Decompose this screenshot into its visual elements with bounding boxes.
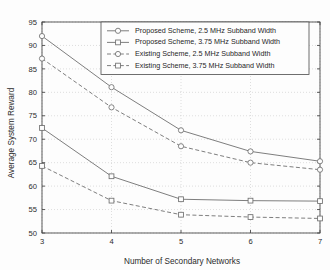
x-tick-label: 7 [318,237,322,246]
data-point-marker [178,144,183,149]
legend-marker-sample [115,28,120,33]
y-tick-label: 80 [29,88,37,97]
y-tick-label: 70 [29,135,37,144]
data-point-marker [248,215,253,220]
y-tick-label: 85 [29,65,37,74]
x-tick-label: 3 [40,237,44,246]
y-tick-label: 50 [29,229,37,238]
data-point-marker [109,85,114,90]
data-point-marker [40,164,45,169]
data-point-marker [109,198,114,203]
data-point-marker [179,197,184,202]
y-tick-label: 55 [29,205,37,214]
data-point-marker [318,199,323,204]
line-chart: 50556065707580859095 34567 Average Syste… [0,0,330,270]
y-tick-label: 65 [29,158,37,167]
x-tick-label: 5 [179,237,183,246]
data-point-marker [39,33,44,38]
data-point-marker [39,56,44,61]
x-tick-label: 4 [109,237,113,246]
chart-legend: Proposed Scheme, 2.5 MHz Subband WidthPr… [101,22,309,74]
legend-marker-sample [116,40,121,45]
legend-label: Proposed Scheme, 2.5 MHz Subband Width [135,26,276,35]
legend-marker-sample [116,63,121,68]
chart-figure: 50556065707580859095 34567 Average Syste… [0,0,330,270]
data-point-marker [109,105,114,110]
data-point-marker [40,126,45,131]
data-point-marker [248,149,253,154]
data-point-marker [317,167,322,172]
x-axis-title: Number of Secondary Networks [124,257,240,266]
x-tick-label: 6 [248,237,252,246]
data-point-marker [317,159,322,164]
y-tick-label: 95 [29,18,37,27]
legend-label: Proposed Scheme, 3.75 MHz Subband Width [135,37,280,46]
legend-label: Existing Scheme, 2.5 MHz Subband Width [135,49,270,58]
y-axis-title: Average System Reward [7,87,16,178]
legend-marker-sample [115,51,120,56]
data-point-marker [248,160,253,165]
data-point-marker [179,212,184,217]
data-point-marker [109,174,114,179]
data-point-marker [178,128,183,133]
data-point-marker [248,198,253,203]
y-tick-label: 60 [29,182,37,191]
y-tick-label: 75 [29,111,37,120]
y-tick-label: 90 [29,41,37,50]
legend-label: Existing Scheme, 3.75 MHz Subband Width [135,61,274,70]
data-point-marker [318,216,323,221]
